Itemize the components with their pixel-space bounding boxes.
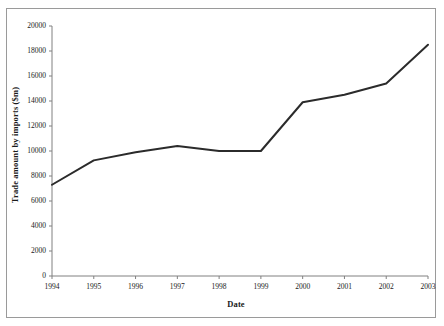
x-tick-label: 1994 <box>32 282 72 291</box>
line-chart: 0200040006000800010000120001400016000180… <box>0 0 444 326</box>
x-tick-label: 1999 <box>241 282 281 291</box>
y-tick-label: 18000 <box>6 46 46 55</box>
x-tick-label: 1998 <box>199 282 239 291</box>
y-axis-title: Trade amount by imports ($m) <box>10 60 20 230</box>
x-tick-label: 2002 <box>366 282 406 291</box>
x-tick-label: 1996 <box>116 282 156 291</box>
y-tick-label: 0 <box>6 271 46 280</box>
x-tick-label: 2003 <box>408 282 444 291</box>
data-series-line <box>52 45 428 185</box>
y-tick-label: 2000 <box>6 246 46 255</box>
x-tick-label: 2000 <box>283 282 323 291</box>
x-tick-label: 1995 <box>74 282 114 291</box>
chart-canvas <box>0 0 444 326</box>
x-tick-label: 2001 <box>324 282 364 291</box>
x-axis-title: Date <box>52 299 420 309</box>
x-tick-label: 1997 <box>157 282 197 291</box>
y-tick-label: 20000 <box>6 21 46 30</box>
